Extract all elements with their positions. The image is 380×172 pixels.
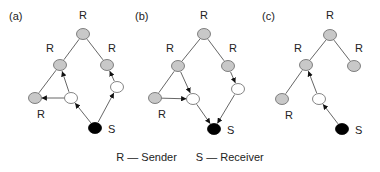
legend: R — Sender S — Receiver: [0, 151, 380, 163]
directed-edge: [217, 95, 234, 124]
node-label: R: [46, 42, 54, 54]
directed-edge: [161, 98, 186, 99]
node-label: S: [355, 124, 362, 136]
sender-node: [54, 60, 67, 71]
node-label: R: [108, 42, 116, 54]
directed-edge: [197, 104, 211, 123]
node-label: R: [200, 9, 208, 21]
panel-b: (b)RRRRS: [135, 9, 245, 136]
edge: [286, 70, 303, 93]
directed-edge: [308, 71, 316, 93]
relay-node: [232, 84, 245, 95]
edge: [310, 40, 326, 60]
node-label: R: [37, 108, 45, 120]
sender-node: [77, 29, 90, 40]
relay-node: [111, 82, 124, 93]
receiver-node: [336, 124, 349, 135]
sender-node: [300, 60, 313, 71]
relay-node: [313, 94, 326, 105]
node-label: R: [355, 42, 363, 54]
sender-node: [276, 94, 289, 105]
node-label: R: [285, 109, 293, 121]
edge: [208, 39, 224, 61]
sender-node: [348, 61, 361, 72]
directed-edge: [110, 71, 115, 81]
directed-edge: [98, 93, 114, 123]
network-diagram: (a)RRRRS(b)RRRRS(c)RRRRS: [0, 0, 380, 172]
relay-node: [65, 93, 78, 104]
directed-edge: [62, 71, 69, 92]
node-label: R: [166, 42, 174, 54]
panel-label: (b): [135, 10, 148, 22]
sender-node: [324, 30, 337, 41]
node-label: R: [229, 42, 237, 54]
node-label: S: [227, 124, 234, 136]
edge: [334, 40, 350, 61]
sender-node: [149, 93, 162, 104]
directed-edge: [181, 72, 191, 93]
edge: [64, 39, 79, 60]
edge: [159, 71, 174, 92]
node-label: R: [294, 42, 302, 54]
sender-node: [198, 29, 211, 40]
node-label: S: [108, 123, 115, 135]
sender-node: [172, 61, 185, 72]
edge: [39, 70, 56, 93]
legend-receiver: S — Receiver: [196, 151, 264, 163]
panel-a: (a)RRRRS: [9, 9, 124, 135]
directed-edge: [323, 104, 338, 124]
receiver-node: [208, 124, 221, 135]
node-label: R: [326, 9, 334, 21]
panel-label: (c): [262, 10, 275, 22]
directed-edge: [231, 72, 236, 83]
sender-node: [222, 61, 235, 72]
sender-node: [101, 60, 114, 71]
sender-node: [29, 93, 42, 104]
edge: [182, 39, 200, 61]
receiver-node: [89, 123, 102, 134]
node-label: R: [158, 108, 166, 120]
directed-edge: [75, 103, 91, 123]
node-label: R: [79, 9, 87, 21]
edge: [87, 39, 103, 60]
panel-label: (a): [9, 10, 22, 22]
relay-node: [187, 94, 200, 105]
panel-c: (c)RRRRS: [262, 9, 363, 136]
legend-sender: R — Sender: [116, 151, 177, 163]
